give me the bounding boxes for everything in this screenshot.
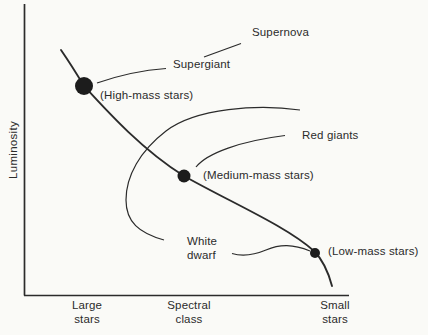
luminosity-axis-label: Luminosity bbox=[7, 121, 19, 179]
high-mass-stars-label: (High-mass stars) bbox=[100, 89, 193, 103]
x-tick-small-stars-line2: stars bbox=[295, 313, 375, 327]
x-tick-small-stars-line1: Small bbox=[295, 299, 375, 313]
supernova-label: Supernova bbox=[252, 26, 309, 40]
white-dwarf-label: White dwarf bbox=[187, 234, 217, 262]
red-giants-label: Red giants bbox=[302, 129, 358, 143]
diagram-artwork bbox=[0, 0, 428, 335]
x-tick-small-stars: Small stars bbox=[295, 299, 375, 326]
supergiant-label: Supergiant bbox=[173, 58, 230, 72]
arrow-medium-mass-to-red-giants bbox=[196, 136, 285, 168]
x-tick-spectral-class-line1: Spectral bbox=[149, 299, 229, 313]
arrow-high-mass-to-supergiant bbox=[97, 69, 166, 84]
medium-mass-stars-label: (Medium-mass stars) bbox=[203, 169, 314, 183]
low-mass-star-dot bbox=[310, 248, 320, 258]
arrow-low-mass-to-white-dwarf bbox=[232, 246, 310, 256]
low-mass-stars-label: (Low-mass stars) bbox=[328, 245, 419, 259]
medium-mass-star-dot bbox=[178, 170, 191, 183]
x-tick-spectral-class: Spectral class bbox=[149, 299, 229, 326]
x-tick-large-stars-line1: Large bbox=[47, 299, 127, 313]
x-tick-large-stars: Large stars bbox=[47, 299, 127, 326]
arrow-supergiant-to-supernova bbox=[204, 44, 241, 58]
stellar-evolution-diagram: Luminosity Supernova Supergiant (High-ma… bbox=[0, 0, 428, 335]
white-dwarf-label-line1: White bbox=[187, 234, 217, 248]
high-mass-star-dot bbox=[75, 77, 93, 95]
x-tick-spectral-class-line2: class bbox=[149, 313, 229, 327]
white-dwarf-label-line2: dwarf bbox=[187, 248, 217, 262]
x-tick-large-stars-line2: stars bbox=[47, 313, 127, 327]
